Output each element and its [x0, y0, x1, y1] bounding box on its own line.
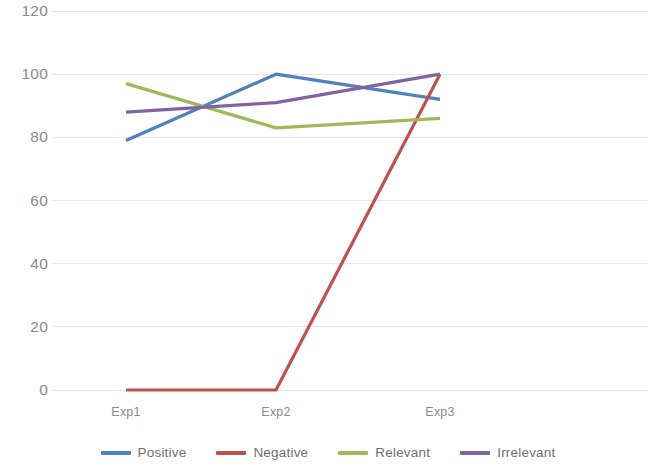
legend-swatch-icon — [216, 451, 246, 455]
legend-item-label: Relevant — [375, 446, 430, 460]
legend-item-label: Negative — [253, 446, 308, 460]
x-tick-label-exp1: Exp1 — [111, 406, 140, 419]
legend-swatch-icon — [460, 451, 490, 455]
x-tick-label-exp3: Exp3 — [425, 406, 454, 419]
legend-swatch-icon — [338, 451, 368, 455]
line-chart: 120100806040200 Exp1Exp2Exp3 PositiveNeg… — [0, 0, 656, 471]
x-tick-label-exp2: Exp2 — [261, 406, 290, 419]
legend-item-positive[interactable]: Positive — [101, 446, 187, 460]
legend-item-irrelevant[interactable]: Irrelevant — [460, 446, 555, 460]
x-axis-tick-labels: Exp1Exp2Exp3 — [0, 0, 656, 430]
legend-item-label: Positive — [138, 446, 187, 460]
legend-item-label: Irrelevant — [497, 446, 555, 460]
legend-swatch-icon — [101, 451, 131, 455]
legend-item-relevant[interactable]: Relevant — [338, 446, 430, 460]
legend-item-negative[interactable]: Negative — [216, 446, 308, 460]
chart-legend: PositiveNegativeRelevantIrrelevant — [0, 440, 656, 466]
